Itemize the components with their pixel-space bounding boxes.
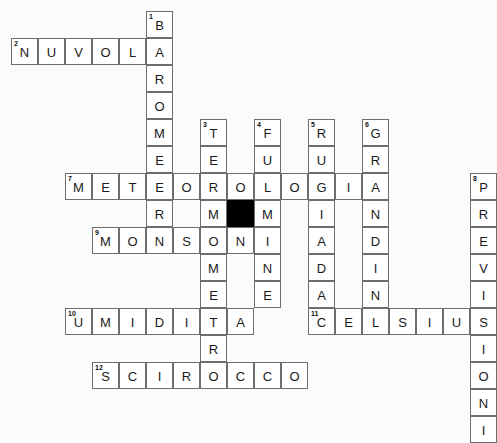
- letter-cell[interactable]: O: [173, 173, 200, 200]
- letter-cell[interactable]: V: [65, 38, 92, 65]
- letter-cell[interactable]: U: [254, 146, 281, 173]
- letter-cell[interactable]: I: [119, 308, 146, 335]
- letter-cell[interactable]: E: [200, 281, 227, 308]
- letter-cell[interactable]: M: [254, 200, 281, 227]
- letter-cell[interactable]: A: [227, 308, 254, 335]
- cell-letter: R: [155, 73, 164, 86]
- cell-letter: O: [127, 235, 137, 248]
- letter-cell[interactable]: I: [470, 416, 497, 443]
- letter-cell[interactable]: U: [443, 308, 470, 335]
- letter-cell[interactable]: 6G: [362, 119, 389, 146]
- letter-cell[interactable]: E: [146, 173, 173, 200]
- letter-cell[interactable]: 3T: [200, 119, 227, 146]
- letter-cell[interactable]: O: [92, 38, 119, 65]
- letter-cell[interactable]: 1B: [146, 11, 173, 38]
- cell-letter: O: [208, 235, 218, 248]
- letter-cell[interactable]: I: [308, 200, 335, 227]
- letter-cell[interactable]: I: [416, 308, 443, 335]
- letter-cell[interactable]: N: [146, 227, 173, 254]
- letter-cell[interactable]: N: [362, 200, 389, 227]
- letter-cell[interactable]: M: [146, 119, 173, 146]
- letter-cell[interactable]: R: [362, 146, 389, 173]
- letter-cell[interactable]: S: [389, 308, 416, 335]
- letter-cell[interactable]: O: [281, 173, 308, 200]
- letter-cell[interactable]: G: [308, 173, 335, 200]
- letter-cell[interactable]: N: [470, 389, 497, 416]
- cell-letter: M: [73, 181, 84, 194]
- letter-cell[interactable]: M: [200, 254, 227, 281]
- letter-cell[interactable]: N: [254, 254, 281, 281]
- letter-cell[interactable]: E: [335, 308, 362, 335]
- letter-cell[interactable]: O: [200, 362, 227, 389]
- letter-cell[interactable]: N: [227, 227, 254, 254]
- letter-cell[interactable]: R: [146, 65, 173, 92]
- letter-cell[interactable]: 12S: [92, 362, 119, 389]
- letter-cell[interactable]: R: [146, 200, 173, 227]
- letter-cell[interactable]: D: [308, 254, 335, 281]
- cell-letter: G: [316, 181, 326, 194]
- letter-cell[interactable]: I: [254, 227, 281, 254]
- letter-cell[interactable]: L: [362, 308, 389, 335]
- letter-cell[interactable]: L: [119, 38, 146, 65]
- letter-cell[interactable]: D: [146, 308, 173, 335]
- cell-letter: R: [182, 370, 191, 383]
- letter-cell[interactable]: I: [470, 335, 497, 362]
- cell-letter: E: [209, 154, 218, 167]
- cell-letter: R: [155, 208, 164, 221]
- letter-cell[interactable]: M: [92, 308, 119, 335]
- letter-cell[interactable]: 2N: [11, 38, 38, 65]
- letter-cell[interactable]: 11C: [308, 308, 335, 335]
- cell-letter: M: [154, 127, 165, 140]
- letter-cell[interactable]: L: [254, 173, 281, 200]
- letter-cell[interactable]: A: [308, 281, 335, 308]
- letter-cell[interactable]: I: [146, 362, 173, 389]
- letter-cell[interactable]: E: [254, 281, 281, 308]
- letter-cell[interactable]: 4F: [254, 119, 281, 146]
- letter-cell[interactable]: I: [470, 281, 497, 308]
- letter-cell[interactable]: U: [308, 146, 335, 173]
- letter-cell[interactable]: A: [308, 227, 335, 254]
- letter-cell[interactable]: C: [119, 362, 146, 389]
- letter-cell[interactable]: S: [470, 308, 497, 335]
- letter-cell[interactable]: 10U: [65, 308, 92, 335]
- letter-cell[interactable]: O: [200, 227, 227, 254]
- letter-cell[interactable]: O: [281, 362, 308, 389]
- letter-cell[interactable]: O: [470, 362, 497, 389]
- letter-cell[interactable]: V: [470, 254, 497, 281]
- letter-cell[interactable]: R: [200, 173, 227, 200]
- letter-cell[interactable]: 7M: [65, 173, 92, 200]
- letter-cell[interactable]: 5R: [308, 119, 335, 146]
- letter-cell[interactable]: M: [200, 200, 227, 227]
- letter-cell[interactable]: I: [362, 254, 389, 281]
- letter-cell[interactable]: T: [200, 308, 227, 335]
- letter-cell[interactable]: N: [362, 281, 389, 308]
- clue-number: 8: [473, 175, 477, 182]
- letter-cell[interactable]: A: [362, 173, 389, 200]
- letter-cell[interactable]: C: [227, 362, 254, 389]
- clue-number: 1: [149, 13, 153, 20]
- letter-cell[interactable]: O: [146, 92, 173, 119]
- letter-cell[interactable]: E: [200, 146, 227, 173]
- letter-cell[interactable]: E: [146, 146, 173, 173]
- letter-cell[interactable]: R: [173, 362, 200, 389]
- letter-cell[interactable]: S: [173, 227, 200, 254]
- letter-cell[interactable]: E: [92, 173, 119, 200]
- letter-cell[interactable]: R: [200, 335, 227, 362]
- cell-letter: I: [131, 316, 135, 329]
- letter-cell[interactable]: 8P: [470, 173, 497, 200]
- letter-cell[interactable]: D: [362, 227, 389, 254]
- letter-cell[interactable]: I: [335, 173, 362, 200]
- letter-cell[interactable]: A: [146, 38, 173, 65]
- letter-cell[interactable]: 9M: [92, 227, 119, 254]
- letter-cell[interactable]: O: [119, 227, 146, 254]
- letter-cell[interactable]: O: [227, 173, 254, 200]
- letter-cell[interactable]: I: [173, 308, 200, 335]
- cell-letter: U: [452, 316, 461, 329]
- cell-letter: A: [317, 289, 326, 302]
- letter-cell[interactable]: C: [254, 362, 281, 389]
- cell-letter: O: [181, 181, 191, 194]
- letter-cell[interactable]: R: [470, 200, 497, 227]
- letter-cell[interactable]: E: [470, 227, 497, 254]
- letter-cell[interactable]: T: [119, 173, 146, 200]
- letter-cell[interactable]: U: [38, 38, 65, 65]
